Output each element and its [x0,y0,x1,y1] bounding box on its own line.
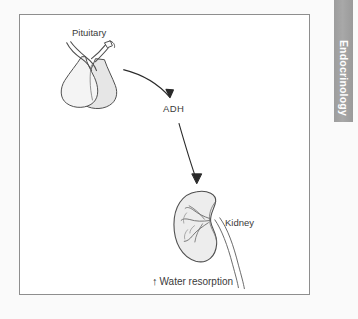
label-adh: ADH [163,104,184,114]
label-water-resorption-text: Water resorption [160,276,234,287]
label-pituitary: Pituitary [72,28,106,38]
increase-arrow-icon: ↑ [152,275,158,287]
section-tab-endocrinology[interactable]: Endocrinology [334,0,353,122]
kidney-illustration [174,191,217,262]
pituitary-to-adh-arrow [123,70,175,98]
label-kidney: Kidney [225,218,254,228]
section-tab-label: Endocrinology [334,0,353,122]
pituitary-gland-illustration [61,41,116,109]
diagram-canvas [20,15,309,294]
figure-frame: Pituitary ADH Kidney ↑Water resorption [19,14,310,295]
page-root: Endocrinology [0,0,358,319]
label-water-resorption: ↑Water resorption [152,276,233,287]
adh-to-kidney-arrow [179,123,202,184]
